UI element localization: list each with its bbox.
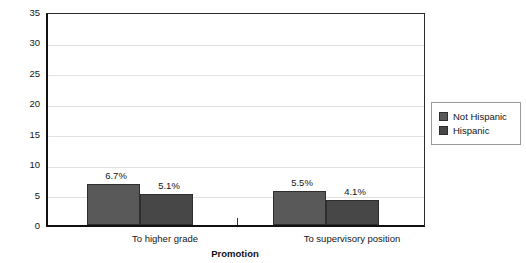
legend-item-hispanic[interactable]: Hispanic xyxy=(439,124,514,137)
legend-label-hispanic: Hispanic xyxy=(453,126,489,136)
legend-label-not-hispanic: Not Hispanic xyxy=(453,112,507,122)
gridline-25 xyxy=(48,75,424,76)
y-tick-30: 30 xyxy=(6,38,40,48)
category-separator-tick xyxy=(237,218,238,225)
bar-higher-grade-hispanic xyxy=(140,194,193,225)
y-axis-tick-labels: 35 30 25 20 15 10 5 0 xyxy=(0,0,46,263)
gridline-20 xyxy=(48,106,424,107)
y-tick-5: 5 xyxy=(6,191,40,201)
legend-swatch-hispanic xyxy=(439,126,448,135)
y-tick-25: 25 xyxy=(6,69,40,79)
legend-swatch-not-hispanic xyxy=(439,112,448,121)
y-tick-10: 10 xyxy=(6,160,40,170)
gridline-15 xyxy=(48,136,424,137)
bar-chart: Percentage of employees 35 30 25 20 15 1… xyxy=(0,0,526,263)
legend: Not Hispanic Hispanic xyxy=(431,102,521,145)
y-tick-0: 0 xyxy=(6,221,40,231)
y-tick-15: 15 xyxy=(6,130,40,140)
bar-label-supervisory-hispanic: 4.1% xyxy=(316,186,394,197)
bar-supervisory-hispanic xyxy=(326,200,379,225)
x-axis-title: Promotion xyxy=(165,248,305,259)
gridline-30 xyxy=(48,45,424,46)
y-tick-35: 35 xyxy=(6,8,40,18)
legend-item-not-hispanic[interactable]: Not Hispanic xyxy=(439,110,514,123)
category-label-to-higher-grade: To higher grade xyxy=(95,233,235,244)
gridline-10 xyxy=(48,167,424,168)
category-label-to-supervisory-position: To supervisory position xyxy=(272,233,432,244)
bar-label-higher-grade-hispanic: 5.1% xyxy=(130,180,208,191)
y-tick-20: 20 xyxy=(6,99,40,109)
